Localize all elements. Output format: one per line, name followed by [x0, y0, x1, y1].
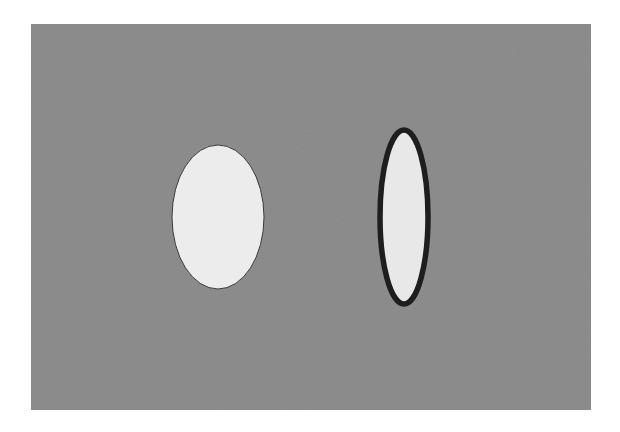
stage [0, 0, 620, 432]
scene-canvas [0, 0, 620, 432]
gray-background-panel [31, 24, 591, 410]
right-ellipse-thick-outline [380, 130, 428, 304]
left-ellipse [172, 145, 264, 289]
